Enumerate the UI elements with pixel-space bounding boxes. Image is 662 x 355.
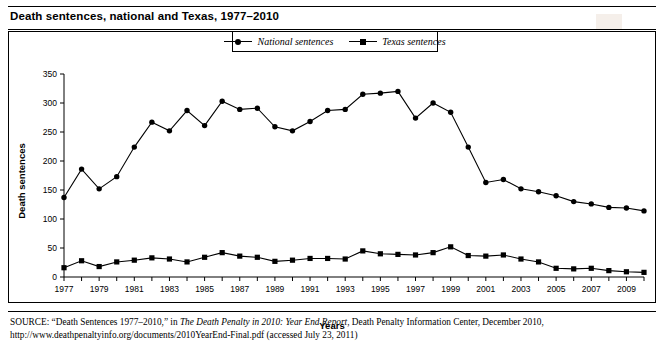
legend-item-national: National sentences bbox=[224, 36, 333, 47]
svg-text:1991: 1991 bbox=[301, 284, 320, 294]
svg-text:1993: 1993 bbox=[336, 284, 355, 294]
top-divider bbox=[8, 6, 656, 7]
svg-text:2007: 2007 bbox=[582, 284, 601, 294]
svg-text:150: 150 bbox=[43, 185, 57, 195]
chart-svg: 0501001502002503003501977197919811983198… bbox=[8, 31, 656, 303]
legend-marker-circle-icon bbox=[224, 41, 252, 42]
svg-text:200: 200 bbox=[43, 156, 57, 166]
svg-text:1997: 1997 bbox=[406, 284, 425, 294]
svg-text:2005: 2005 bbox=[547, 284, 566, 294]
source-text-1: “Death Sentences 1977–2010,” in bbox=[49, 317, 180, 327]
svg-text:2001: 2001 bbox=[476, 284, 495, 294]
source-note: SOURCE: “Death Sentences 1977–2010,” in … bbox=[10, 316, 656, 342]
svg-text:100: 100 bbox=[43, 214, 57, 224]
chart-legend: National sentences Texas sentences bbox=[232, 31, 438, 52]
svg-text:1987: 1987 bbox=[230, 284, 249, 294]
svg-text:250: 250 bbox=[43, 127, 57, 137]
source-prefix: SOURCE: bbox=[10, 317, 49, 327]
source-text-3: .deathpenaltyinfo.org/documents/2010Year… bbox=[52, 330, 358, 340]
svg-text:1999: 1999 bbox=[441, 284, 460, 294]
svg-text:1979: 1979 bbox=[90, 284, 109, 294]
plot-area: 0501001502002503003501977197919811983198… bbox=[8, 31, 656, 303]
figure-page: Death sentences, national and Texas, 197… bbox=[0, 0, 662, 355]
legend-marker-square-icon bbox=[349, 41, 377, 42]
svg-text:1977: 1977 bbox=[55, 284, 74, 294]
legend-label-texas: Texas sentences bbox=[382, 36, 445, 47]
svg-text:1981: 1981 bbox=[125, 284, 144, 294]
y-axis-title: Death sentences bbox=[16, 143, 27, 219]
scan-artifact bbox=[596, 14, 622, 30]
svg-text:350: 350 bbox=[43, 69, 57, 79]
title-divider bbox=[8, 29, 656, 30]
svg-text:1983: 1983 bbox=[160, 284, 179, 294]
legend-label-national: National sentences bbox=[257, 36, 333, 47]
svg-text:1985: 1985 bbox=[195, 284, 214, 294]
svg-text:0: 0 bbox=[52, 272, 57, 282]
svg-text:1995: 1995 bbox=[371, 284, 390, 294]
svg-text:300: 300 bbox=[43, 98, 57, 108]
source-divider bbox=[8, 311, 656, 312]
source-report-title: The Death Penalty in 2010: Year End Repo… bbox=[180, 317, 347, 327]
svg-text:50: 50 bbox=[48, 243, 58, 253]
svg-text:1989: 1989 bbox=[265, 284, 284, 294]
svg-text:2003: 2003 bbox=[512, 284, 531, 294]
svg-text:2009: 2009 bbox=[617, 284, 636, 294]
page-title: Death sentences, national and Texas, 197… bbox=[10, 10, 279, 22]
legend-item-texas: Texas sentences bbox=[349, 36, 445, 47]
